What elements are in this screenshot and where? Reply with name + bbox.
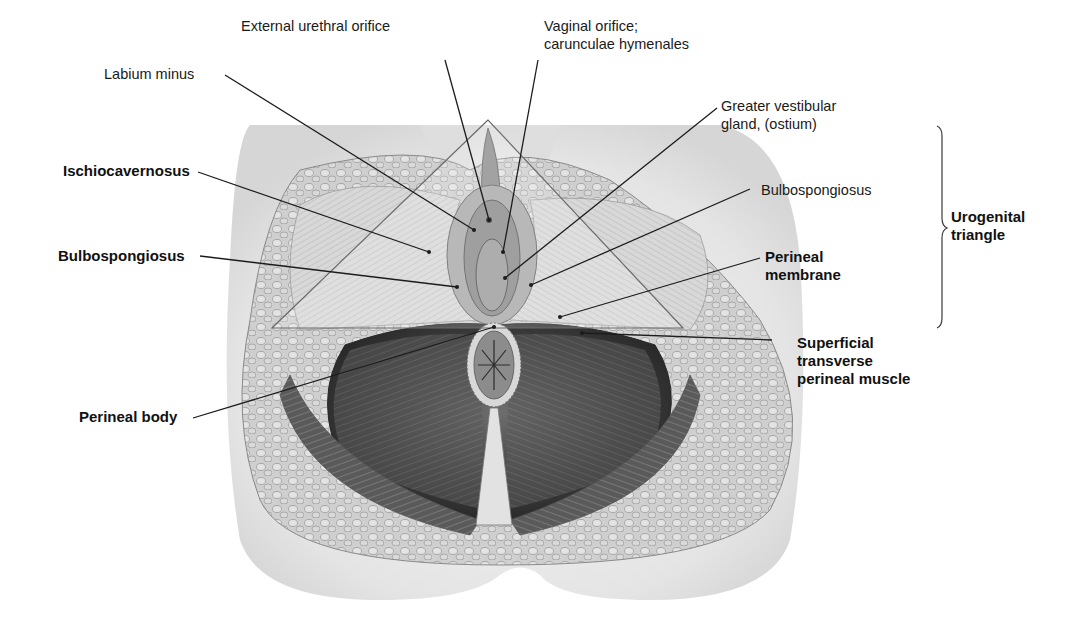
label-perineal-membrane-line1: Perineal xyxy=(765,248,841,266)
perineum-figure: External urethral orifice Labium minus V… xyxy=(0,0,1082,635)
urogenital-bracket xyxy=(937,126,947,328)
label-labium-minus: Labium minus xyxy=(104,65,194,83)
illustration xyxy=(0,0,1082,635)
label-bulbospongiosus-left: Bulbospongiosus xyxy=(58,247,185,265)
label-superficial-transverse-line3: perineal muscle xyxy=(797,370,910,388)
label-greater-vestibular-gland-line1: Greater vestibular xyxy=(721,97,836,115)
label-greater-vestibular-gland: Greater vestibular gland, (ostium) xyxy=(721,97,836,133)
label-bulbospongiosus-right: Bulbospongiosus xyxy=(761,181,871,199)
label-urogenital-triangle: Urogenital triangle xyxy=(951,208,1025,244)
label-vaginal-orifice-line1: Vaginal orifice; xyxy=(544,17,689,35)
label-urogenital-triangle-line1: Urogenital xyxy=(951,208,1025,226)
label-perineal-membrane: Perineal membrane xyxy=(765,248,841,284)
label-urogenital-triangle-line2: triangle xyxy=(951,226,1025,244)
label-external-urethral-orifice: External urethral orifice xyxy=(241,17,390,35)
label-perineal-membrane-line2: membrane xyxy=(765,266,841,284)
label-greater-vestibular-gland-line2: gland, (ostium) xyxy=(721,115,836,133)
label-superficial-transverse-line2: transverse xyxy=(797,352,910,370)
label-superficial-transverse-line1: Superficial xyxy=(797,334,910,352)
label-perineal-body: Perineal body xyxy=(79,408,177,426)
label-vaginal-orifice-line2: carunculae hymenales xyxy=(544,35,689,53)
label-superficial-transverse-perineal: Superficial transverse perineal muscle xyxy=(797,334,910,388)
label-vaginal-orifice: Vaginal orifice; carunculae hymenales xyxy=(544,17,689,53)
label-ischiocavernosus: Ischiocavernosus xyxy=(63,162,190,180)
